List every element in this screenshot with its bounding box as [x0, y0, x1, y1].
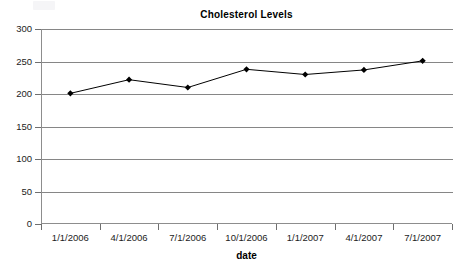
y-axis-label: 50: [0, 186, 32, 197]
plot-area: [41, 29, 452, 224]
x-axis-tick: [335, 224, 336, 230]
x-axis-tick: [158, 224, 159, 230]
y-axis-label: 0: [0, 218, 32, 229]
gridline: [42, 192, 453, 193]
y-axis-label: 250: [0, 56, 32, 67]
gridline: [42, 94, 453, 95]
x-axis-title: date: [41, 250, 452, 261]
x-axis-tick: [393, 224, 394, 230]
x-axis-label: 7/1/2007: [404, 232, 441, 243]
y-axis-label: 200: [0, 88, 32, 99]
x-axis-label: 1/1/2007: [287, 232, 324, 243]
y-axis-label: 300: [0, 23, 32, 34]
x-axis-label: 7/1/2006: [169, 232, 206, 243]
x-axis-tick: [41, 224, 42, 230]
y-axis-label: 100: [0, 153, 32, 164]
gridline: [42, 159, 453, 160]
chart-title: Cholesterol Levels: [41, 9, 452, 20]
x-axis-tick: [276, 224, 277, 230]
x-axis-label: 1/1/2006: [52, 232, 89, 243]
chart-container: Cholesterol Levels 050100150200250300 1/…: [0, 0, 467, 272]
x-axis-tick: [452, 224, 453, 230]
x-axis-label: 4/1/2007: [345, 232, 382, 243]
x-axis-tick: [217, 224, 218, 230]
x-axis-tick: [100, 224, 101, 230]
y-axis-label: 150: [0, 121, 32, 132]
gridline: [42, 127, 453, 128]
x-axis-label: 4/1/2006: [111, 232, 148, 243]
gridline: [42, 29, 453, 30]
x-axis-label: 10/1/2006: [225, 232, 267, 243]
gridline: [42, 62, 453, 63]
